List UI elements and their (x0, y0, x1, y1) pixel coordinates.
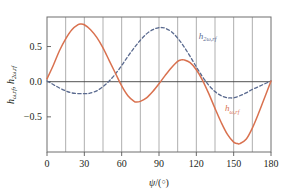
chart-figure: 0306090120150180 −0.50.00.5 ψ/(○) hω,rf,… (0, 0, 286, 194)
x-tick-label: 150 (226, 158, 241, 169)
y-tick-label: 0.5 (30, 41, 43, 52)
plot-svg: 0306090120150180 −0.50.00.5 ψ/(○) hω,rf,… (0, 0, 286, 194)
x-tick-label: 90 (154, 158, 164, 169)
svg-text:ψ/(○): ψ/(○) (149, 177, 169, 189)
x-tick-label: 60 (117, 158, 127, 169)
x-tick-label: 30 (79, 158, 89, 169)
x-tick-label: 120 (189, 158, 204, 169)
chart-background (0, 0, 286, 194)
x-axis-title: ψ/(○) (149, 177, 169, 189)
y-tick-label: −0.5 (24, 111, 42, 122)
x-tick-label: 180 (264, 158, 279, 169)
y-tick-label: 0.0 (30, 76, 43, 87)
x-tick-label: 0 (45, 158, 50, 169)
